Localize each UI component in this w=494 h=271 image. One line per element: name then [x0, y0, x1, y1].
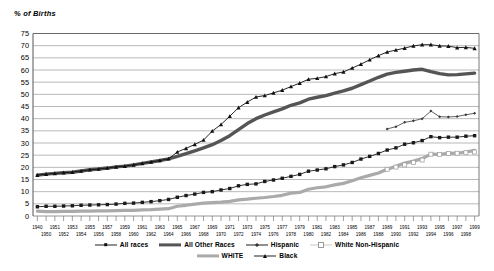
x-tick-label: 1989 [382, 225, 393, 230]
data-point [298, 81, 302, 85]
data-point [412, 141, 415, 144]
data-point [184, 194, 187, 197]
y-tick-label: 65 [21, 53, 29, 62]
legend-marker-diamond-icon [255, 242, 259, 246]
series-white-non-hispanic [385, 150, 476, 171]
x-tick-label: 1993 [417, 225, 428, 230]
data-point [368, 58, 372, 62]
legend-item-black[interactable]: Black [254, 251, 297, 260]
legend-label: WHITE [222, 252, 244, 259]
x-tick-label: 1940 [32, 225, 43, 230]
data-point [464, 151, 468, 155]
data-point [429, 152, 433, 156]
legend-item-white[interactable]: WHITE [197, 251, 244, 260]
data-point [263, 180, 266, 183]
legend-key-light-open-square-icon [310, 240, 332, 249]
data-point [53, 205, 56, 208]
x-tick-label: 1984 [338, 232, 349, 237]
data-point [456, 115, 459, 118]
data-point [350, 66, 354, 70]
y-tick-label: 0 [25, 212, 29, 221]
x-tick-label: 1974 [251, 232, 262, 237]
data-point [167, 198, 170, 201]
data-point [394, 125, 397, 128]
x-tick-label: 1958 [111, 232, 122, 237]
y-tick-label: 55 [21, 78, 29, 87]
x-tick-label: 1964 [163, 232, 174, 237]
y-tick-label: 10 [21, 187, 29, 196]
data-point [411, 160, 415, 164]
data-point [333, 165, 336, 168]
x-tick-label: 1979 [295, 225, 306, 230]
x-tick-label: 1963 [155, 225, 166, 230]
data-point [237, 184, 240, 187]
legend-item-white-non-hispanic[interactable]: White Non-Hispanic [310, 240, 399, 249]
legend-row: All racesAll Other RacesHispanicWhite No… [95, 240, 399, 249]
x-tick-label: 1960 [128, 232, 139, 237]
data-point [254, 182, 257, 185]
legend-marker-triangle-icon [263, 254, 267, 258]
x-tick-label: 1953 [67, 225, 78, 230]
x-tick-label: 1972 [233, 232, 244, 237]
x-tick-label: 1966 [181, 232, 192, 237]
data-point [446, 151, 450, 155]
data-point [123, 202, 126, 205]
legend-item-hispanic[interactable]: Hispanic [246, 240, 299, 249]
y-tick-label: 70 [21, 41, 29, 50]
data-point [79, 204, 82, 207]
x-tick-label: 1969 [207, 225, 218, 230]
legend-item-all-races[interactable]: All races [95, 240, 148, 249]
y-tick-label: 20 [21, 163, 29, 172]
data-point [245, 100, 249, 104]
x-tick-label: 1986 [356, 232, 367, 237]
data-point [114, 202, 117, 205]
data-point [403, 163, 407, 167]
series-white [37, 150, 474, 211]
data-point [464, 113, 467, 116]
x-tick-label: 1991 [400, 225, 411, 230]
data-point [149, 200, 152, 203]
series-line [37, 45, 474, 175]
data-point [420, 139, 423, 142]
legend-label: All Other Races [184, 241, 235, 248]
y-tick-label: 40 [21, 114, 29, 123]
series-line [37, 69, 474, 175]
data-point [307, 170, 310, 173]
data-point [88, 203, 91, 206]
x-tick-label: 1983 [330, 225, 341, 230]
x-tick-label: 1988 [373, 232, 384, 237]
legend-label: White Non-Hispanic [335, 241, 399, 248]
series-all-other-races [37, 69, 474, 175]
x-tick-label: 1995 [435, 225, 446, 230]
legend-label: Hispanic [271, 241, 299, 248]
y-tick-label: 45 [21, 102, 29, 111]
data-point [368, 155, 371, 158]
x-tick-label: 1965 [172, 225, 183, 230]
chart-root: % of Births 0510152025303540455055606570… [0, 0, 494, 271]
x-tick-label: 1959 [120, 225, 131, 230]
series-line [37, 150, 474, 211]
y-tick-label: 25 [21, 151, 29, 160]
data-point [272, 178, 275, 181]
data-point [455, 151, 459, 155]
legend-item-all-other-races[interactable]: All Other Races [159, 240, 235, 249]
y-tick-label: 15 [21, 175, 29, 184]
data-point [359, 157, 362, 160]
x-tick-label: 1990 [391, 232, 402, 237]
data-point [473, 150, 477, 154]
data-point [438, 152, 442, 156]
data-point [385, 167, 389, 171]
x-tick-label: 1961 [137, 225, 148, 230]
data-point [132, 201, 135, 204]
data-point [473, 134, 476, 137]
data-point [158, 199, 161, 202]
x-tick-label: 1968 [198, 232, 209, 237]
x-tick-label: 1976 [268, 232, 279, 237]
x-tick-label: 1950 [41, 232, 52, 237]
legend-label: All races [120, 241, 148, 248]
x-tick-label: 1999 [470, 225, 481, 230]
x-tick-label: 1982 [321, 232, 332, 237]
legend-key-thick-light-line-icon [197, 251, 219, 260]
data-point [455, 135, 458, 138]
data-point [202, 191, 205, 194]
